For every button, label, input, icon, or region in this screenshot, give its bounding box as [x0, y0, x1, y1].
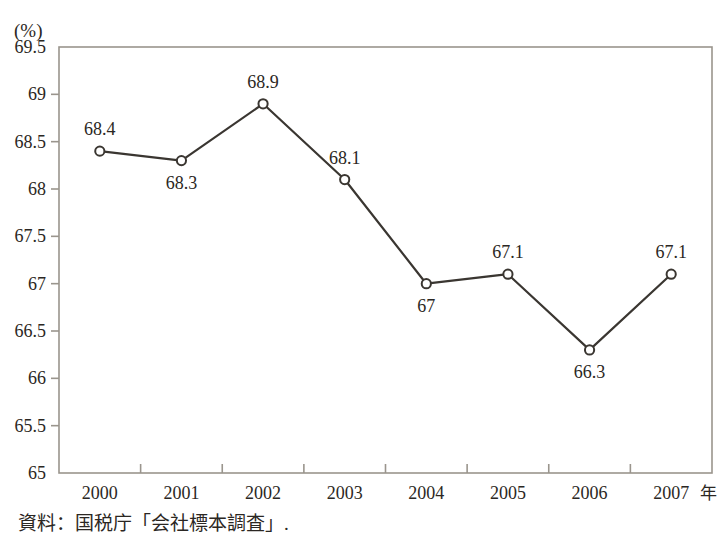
- data-point-marker: [585, 345, 594, 354]
- data-point-value-label: 68.1: [329, 148, 361, 168]
- y-axis-tick-label: 65: [28, 463, 46, 483]
- x-axis-tick-label: 2000: [82, 483, 118, 503]
- y-axis-tick-label: 69: [28, 84, 46, 104]
- y-axis-ticks: 6565.56666.56767.56868.56969.5: [15, 37, 60, 483]
- data-point-value-label: 67.1: [655, 242, 687, 262]
- chart-figure: (%) 6565.56666.56767.56868.56969.5 20002…: [0, 0, 723, 546]
- x-axis-tick-label: 2007: [653, 483, 689, 503]
- data-point-marker: [340, 175, 349, 184]
- x-axis-tick-label: 2002: [245, 483, 281, 503]
- y-axis-tick-label: 69.5: [15, 37, 47, 57]
- data-point-markers: [95, 99, 676, 354]
- data-point-value-label: 67: [417, 296, 435, 316]
- x-axis-ticks: 20002001200220032004200520062007年: [82, 464, 717, 503]
- y-axis-tick-label: 66: [28, 368, 46, 388]
- source-caption: 資料：国税庁「会社標本調査」.: [18, 508, 289, 535]
- x-axis-tick-label: 2005: [490, 483, 526, 503]
- data-point-marker: [503, 270, 512, 279]
- y-axis-tick-label: 67.5: [15, 226, 47, 246]
- y-axis-tick-label: 66.5: [15, 321, 47, 341]
- y-axis-tick-label: 68.5: [15, 132, 47, 152]
- x-axis-tick-label: 2001: [163, 483, 199, 503]
- x-axis-unit-label: 年: [700, 484, 717, 503]
- y-axis-tick-label: 67: [28, 274, 46, 294]
- data-point-value-label: 67.1: [492, 242, 524, 262]
- data-point-marker: [177, 156, 186, 165]
- data-point-marker: [258, 99, 267, 108]
- series-polyline: [100, 104, 671, 350]
- y-axis-tick-label: 68: [28, 179, 46, 199]
- data-series-line: [100, 104, 671, 350]
- data-point-marker: [667, 270, 676, 279]
- x-axis-tick-label: 2004: [408, 483, 444, 503]
- data-point-value-label: 66.3: [574, 362, 606, 382]
- data-point-marker: [95, 147, 104, 156]
- x-axis-tick-label: 2003: [327, 483, 363, 503]
- data-point-value-label: 68.4: [84, 119, 116, 139]
- data-point-labels: 68.468.368.968.16767.166.367.1: [84, 72, 687, 382]
- data-point-value-label: 68.3: [166, 173, 198, 193]
- data-point-value-label: 68.9: [247, 72, 279, 92]
- axis-layer: [59, 47, 712, 473]
- y-axis-tick-label: 65.5: [15, 416, 47, 436]
- x-axis-tick-label: 2006: [572, 483, 608, 503]
- data-point-marker: [422, 279, 431, 288]
- line-chart-plot: 6565.56666.56767.56868.56969.5 200020012…: [0, 0, 723, 546]
